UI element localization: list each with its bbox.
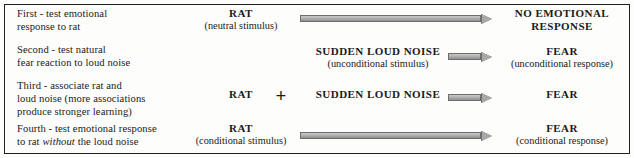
row-2-second-paren: (unconditional stimulus) [328, 58, 429, 69]
row-3-description-line-1: Third - associate rat and [17, 80, 122, 92]
row-2-arrow [448, 52, 492, 61]
row-2-outcome-paren: (unconditional response) [511, 58, 613, 69]
row-3-arrow [448, 93, 492, 102]
row-1-stimulus-paren: (neutral stimulus) [205, 20, 278, 31]
row-2-description-line-1: Second - test natural [17, 44, 106, 56]
row-4-description-line-1: Fourth - test emotional response [17, 123, 157, 135]
row-3-description-line-2: loud noise (more associations [17, 93, 146, 105]
row-2-description-line-2: fear reaction to loud noise [17, 57, 130, 69]
row-4-stimulus-paren: (conditional stimulus) [196, 135, 287, 146]
row-1-outcome-line-1: NO EMOTIONAL [515, 7, 609, 19]
figure-container: First - test emotional response to rat R… [0, 0, 634, 158]
row-2-second-label: SUDDEN LOUD NOISE [316, 45, 440, 57]
row-3-outcome-line-1: FEAR [546, 88, 578, 100]
row-3-description-line-3: produce stronger learning) [17, 106, 132, 118]
row-4-description-italic: without [42, 136, 75, 147]
row-4-description-line-2: to rat without the loud noise [17, 136, 139, 148]
row-4-outcome-line-1: FEAR [546, 122, 578, 134]
row-1-description-line-1: First - test emotional [17, 8, 107, 20]
row-1-stimulus-label: RAT [229, 7, 253, 19]
row-4-arrow [300, 131, 492, 140]
row-4-outcome-paren: (conditional response) [516, 135, 608, 146]
plus-sign-icon: + [276, 86, 287, 105]
row-1-outcome-line-2: RESPONSE [531, 20, 593, 32]
row-4-description-pre: to rat [17, 136, 42, 147]
row-4-description-post: the loud noise [75, 136, 139, 147]
row-1-description-line-2: response to rat [17, 21, 80, 33]
row-2-outcome-line-1: FEAR [546, 45, 578, 57]
row-3-second-label: SUDDEN LOUD NOISE [316, 88, 440, 100]
row-4-stimulus-label: RAT [229, 122, 253, 134]
row-1-arrow [300, 14, 492, 23]
row-3-stimulus-label: RAT [229, 88, 253, 100]
